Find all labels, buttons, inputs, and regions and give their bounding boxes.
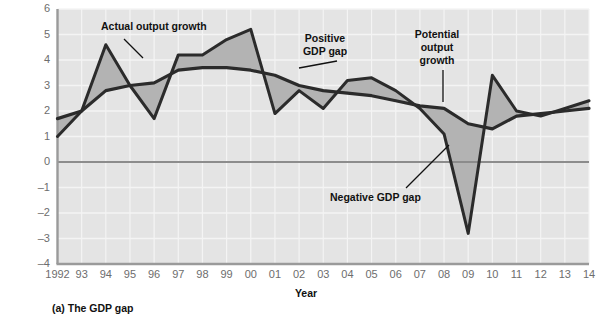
y-tick-label: –3 xyxy=(28,233,50,244)
x-tick-label: 09 xyxy=(462,268,474,280)
figure-caption: (a) The GDP gap xyxy=(52,302,133,314)
annotation-potential-output-growth: Potential output growth xyxy=(404,28,470,67)
x-tick-label: 96 xyxy=(148,268,160,280)
x-tick-label: 94 xyxy=(100,268,112,280)
x-tick-label: 99 xyxy=(220,268,232,280)
y-tick-label: 1 xyxy=(28,131,50,142)
y-tick-label: 0 xyxy=(28,156,50,167)
annotation-actual-output-growth: Actual output growth xyxy=(101,20,236,33)
x-tick-label: 07 xyxy=(414,268,426,280)
y-tick-label: –2 xyxy=(28,207,50,218)
x-tick-label: 10 xyxy=(486,268,498,280)
annotation-positive-gdp-gap: Positive GDP gap xyxy=(292,32,358,58)
x-tick-label: 13 xyxy=(559,268,571,280)
y-tick-label: –1 xyxy=(28,182,50,193)
y-tick-label: 2 xyxy=(28,105,50,116)
x-tick-label: 03 xyxy=(317,268,329,280)
x-tick-label: 95 xyxy=(124,268,136,280)
x-tick-label: 11 xyxy=(511,268,522,280)
x-tick-label: 02 xyxy=(293,268,305,280)
y-tick-label: 5 xyxy=(28,29,50,40)
x-tick-label: 00 xyxy=(245,268,257,280)
x-tick-label: 98 xyxy=(196,268,208,280)
x-axis-title: Year xyxy=(0,287,612,299)
x-tick-label: 1992 xyxy=(45,268,69,280)
x-tick-label: 14 xyxy=(583,268,595,280)
x-tick-label: 04 xyxy=(341,268,353,280)
x-tick-label: 06 xyxy=(390,268,402,280)
x-tick-label: 12 xyxy=(535,268,547,280)
annotation-negative-gdp-gap: Negative GDP gap xyxy=(330,191,450,204)
x-tick-label: 97 xyxy=(172,268,184,280)
y-tick-label: 6 xyxy=(28,3,50,14)
gdp-gap-figure: Year-over-year percentage change at annu… xyxy=(0,0,612,318)
x-tick-label: 05 xyxy=(365,268,377,280)
x-tick-label: 93 xyxy=(76,268,88,280)
y-tick-label: 4 xyxy=(28,54,50,65)
x-tick-label: 08 xyxy=(438,268,450,280)
y-tick-label: 3 xyxy=(28,80,50,91)
x-tick-label: 01 xyxy=(269,268,281,280)
